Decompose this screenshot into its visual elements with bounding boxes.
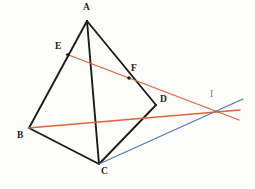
ray-C-to-I <box>99 99 243 164</box>
label-point-E: E <box>55 42 62 52</box>
edge-CD <box>99 105 156 164</box>
geometry-figure: A B C D E F I <box>0 0 255 189</box>
point-marker-F <box>127 76 131 80</box>
edge-AC <box>87 21 99 164</box>
diagram-canvas <box>0 0 255 189</box>
label-point-A: A <box>83 3 90 13</box>
ray-BD-to-I <box>28 110 240 128</box>
label-point-I: I <box>210 89 214 99</box>
edge-AD <box>87 21 156 105</box>
edge-AB <box>29 21 87 128</box>
label-point-C: C <box>101 167 108 177</box>
label-point-F: F <box>131 64 137 74</box>
label-point-B: B <box>17 131 24 141</box>
point-marker-E <box>66 53 70 57</box>
tetrahedron-edges <box>29 21 156 164</box>
edge-BC <box>29 128 99 164</box>
label-point-D: D <box>160 95 167 105</box>
